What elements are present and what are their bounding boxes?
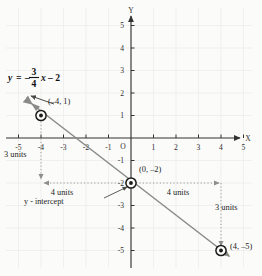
equation-numerator: 3: [32, 66, 37, 77]
point-label-4-neg5: (4, –5): [230, 242, 253, 251]
y-tick-label-neg3: -3: [118, 201, 125, 210]
y-tick-label-neg5: -5: [118, 246, 125, 255]
x-tick-label-neg4: -4: [38, 143, 45, 152]
equation-equals: =: [16, 72, 22, 83]
x-tick-label-5: 5: [242, 143, 246, 152]
x-tick-label-2: 2: [174, 143, 178, 152]
y-tick-label-4: 4: [120, 44, 124, 53]
x-axis-label: X: [245, 134, 251, 143]
point-label-0-neg2: (0, –2): [139, 165, 162, 174]
y-intercept-label: y - intercept: [24, 197, 64, 206]
x-tick-label-3: 3: [197, 143, 201, 152]
y-tick-label-3: 3: [120, 66, 124, 75]
x-tick-label-neg3: -3: [60, 143, 67, 152]
y-axis-label: Y: [128, 6, 134, 15]
point-marker-neg4-1[interactable]: [36, 110, 46, 120]
annotation-run-right: 4 units: [167, 188, 190, 197]
equation-denominator: 4: [32, 78, 37, 89]
x-tick-label-4: 4: [219, 143, 223, 152]
equation-constant: – 2: [47, 72, 60, 83]
equation-lhs: y: [7, 72, 13, 83]
point-marker-0-neg2[interactable]: [126, 178, 136, 188]
point-label-neg4-1: (–4, 1): [48, 97, 71, 106]
annotation-rise-left: 3 units: [4, 150, 27, 159]
point-marker-4-neg5[interactable]: [216, 245, 226, 255]
y-tick-label-neg4: -4: [118, 224, 125, 233]
y-tick-label-5: 5: [120, 21, 124, 30]
x-tick-label-neg1: -1: [105, 143, 112, 152]
annotation-rise-right: 3 units: [215, 203, 238, 212]
coordinate-plane-svg: -5 -4 -3 -2 -1 1 2 3 4 5 5 4 3 2 1 -1 -2…: [0, 0, 262, 276]
graph-figure: -5 -4 -3 -2 -1 1 2 3 4 5 5 4 3 2 1 -1 -2…: [0, 0, 262, 276]
annotation-run-left: 4 units: [51, 188, 74, 197]
x-tick-label-1: 1: [152, 143, 156, 152]
y-tick-label-2: 2: [120, 89, 124, 98]
origin-label: O: [120, 142, 126, 151]
equation-variable: x: [40, 72, 46, 83]
y-tick-label-neg1: -1: [118, 156, 125, 165]
y-tick-label-1: 1: [120, 111, 124, 120]
